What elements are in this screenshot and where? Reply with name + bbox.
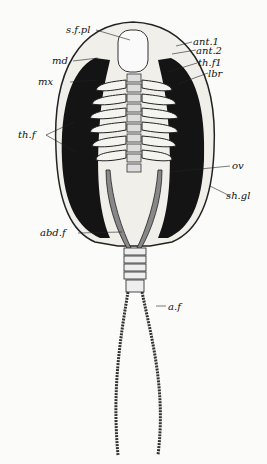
- label-af: a.f: [168, 302, 181, 312]
- label-abdf: abd.f: [40, 228, 66, 238]
- label-md: md: [52, 56, 68, 66]
- label-lbr: lbr: [208, 69, 222, 79]
- label-ov: ov: [232, 161, 244, 171]
- label-shgl: sh.gl: [226, 191, 250, 201]
- label-thf1: th.f1: [198, 58, 222, 68]
- label-thf: th.f: [18, 130, 35, 140]
- label-mx: mx: [38, 77, 53, 87]
- label-ant2: ant.2: [196, 46, 222, 56]
- label-sfpl: s.f.pl: [66, 25, 90, 35]
- illustration-canvas: s.f.pl ant.1 ant.2 md th.f1 lbr mx th.f …: [0, 0, 267, 464]
